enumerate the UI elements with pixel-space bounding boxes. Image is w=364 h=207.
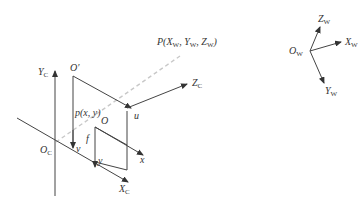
image-origin-label: O xyxy=(101,116,108,126)
world-point-label: P(XW, YW, ZW) xyxy=(157,37,217,49)
pixel-origin-label: O′ xyxy=(70,63,79,73)
zc-axis xyxy=(127,84,187,108)
yw-axis xyxy=(310,51,324,83)
yc-label: YC xyxy=(38,67,48,79)
focal-length-label: f xyxy=(86,134,89,144)
zc-label: ZC xyxy=(192,78,202,90)
yw-label: YW xyxy=(325,86,337,98)
x-axis xyxy=(95,127,143,155)
zw-label: ZW xyxy=(318,14,330,26)
v-label: v xyxy=(76,144,80,154)
xw-axis xyxy=(310,42,341,51)
u-axis xyxy=(73,76,131,108)
u-label: u xyxy=(134,111,139,121)
xw-label: XW xyxy=(345,37,358,49)
y-label: y xyxy=(98,156,102,166)
ow-label: OW xyxy=(289,46,303,58)
oc-label: OC xyxy=(40,145,52,157)
zw-axis xyxy=(310,27,320,51)
x-label: x xyxy=(140,155,144,165)
diagram-canvas xyxy=(0,0,364,207)
image-point-label: p(x, y) xyxy=(75,108,101,118)
xc-label: XC xyxy=(119,184,130,196)
